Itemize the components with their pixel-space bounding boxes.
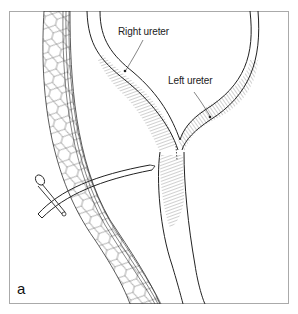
illustration-canvas bbox=[0, 0, 298, 314]
ureter-anastomosis-illustration: Right ureter Left ureter a bbox=[0, 0, 298, 314]
panel-letter: a bbox=[17, 280, 25, 297]
label-left-ureter: Left ureter bbox=[168, 75, 212, 86]
label-right-ureter: Right ureter bbox=[118, 26, 169, 37]
